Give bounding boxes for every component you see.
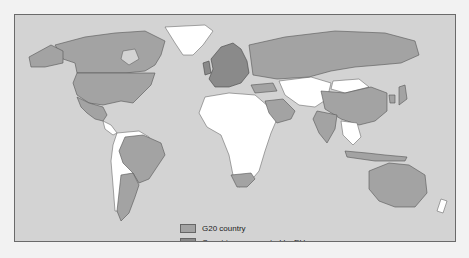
russia <box>249 31 419 79</box>
central-america <box>103 121 117 135</box>
g20-swatch <box>180 224 196 233</box>
japan <box>399 85 407 105</box>
legend-item-g20: G20 country <box>180 222 305 234</box>
eu-swatch <box>180 238 196 243</box>
world-map <box>15 15 456 242</box>
india <box>313 111 337 143</box>
argentina <box>117 173 139 221</box>
legend-label-g20: G20 country <box>202 224 246 233</box>
canada <box>55 31 165 73</box>
united-states <box>73 73 155 105</box>
legend-label-eu: Countries represented by EU <box>202 238 305 243</box>
turkey <box>251 83 277 93</box>
greenland <box>165 25 213 55</box>
alaska <box>29 45 63 67</box>
legend: G20 country Countries represented by EU <box>180 222 305 242</box>
uk <box>203 61 211 75</box>
world-map-frame: G20 country Countries represented by EU <box>14 14 456 242</box>
legend-item-eu: Countries represented by EU <box>180 236 305 242</box>
indonesia <box>345 151 407 161</box>
africa <box>199 93 277 187</box>
south-korea <box>389 95 395 103</box>
australia <box>369 163 427 207</box>
new-zealand <box>437 199 447 213</box>
south-africa <box>231 173 255 187</box>
europe-eu <box>209 43 249 87</box>
